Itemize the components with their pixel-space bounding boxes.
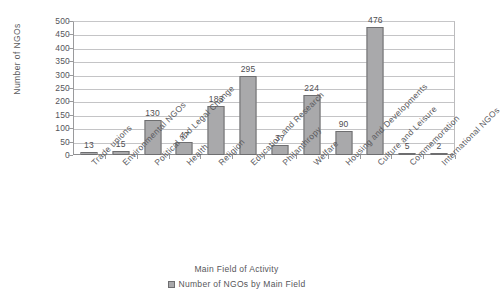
y-axis-tick-mark xyxy=(68,142,73,143)
y-axis-tick-label: 300 xyxy=(44,71,70,80)
x-axis-tick-mark xyxy=(455,155,456,159)
y-axis-tick-mark xyxy=(68,101,73,102)
bar-group: 295 xyxy=(232,21,264,155)
bars-layer: 131513047183295372249047652 xyxy=(73,21,455,155)
y-axis-tick-mark xyxy=(68,115,73,116)
x-axis-tick-mark xyxy=(232,155,233,159)
y-axis-tick-mark xyxy=(68,75,73,76)
legend-label: Number of NGOs by Main Field xyxy=(179,279,306,289)
y-axis-tick-label: 500 xyxy=(44,17,70,26)
bar-value-label: 476 xyxy=(368,16,383,25)
bar-value-label: 13 xyxy=(84,141,94,150)
y-axis-tick-labels: 500450400350300250200150100500 xyxy=(38,0,70,303)
y-axis-tick-mark xyxy=(68,88,73,89)
y-axis-tick-label: 200 xyxy=(44,97,70,106)
y-axis-tick-label: 250 xyxy=(44,84,70,93)
y-axis-tick-mark xyxy=(68,128,73,129)
bar-value-label: 90 xyxy=(339,120,349,129)
y-axis-tick-label: 400 xyxy=(44,44,70,53)
y-axis-tick-mark xyxy=(68,155,73,156)
y-axis-tick-mark xyxy=(68,21,73,22)
x-axis-tick-mark xyxy=(105,155,106,159)
x-axis-tick-mark xyxy=(200,155,201,159)
x-axis-tick-mark xyxy=(137,155,138,159)
x-axis-tick-mark xyxy=(264,155,265,159)
x-axis-tick-mark xyxy=(391,155,392,159)
x-axis-tick-mark xyxy=(328,155,329,159)
x-axis-tick-mark xyxy=(360,155,361,159)
y-axis-title: Number of NGOs xyxy=(12,4,22,114)
x-axis-tick-mark xyxy=(423,155,424,159)
bar-group: 13 xyxy=(73,21,105,155)
y-axis-tick-label: 50 xyxy=(44,138,70,147)
y-axis-tick-mark xyxy=(68,48,73,49)
legend-swatch-icon xyxy=(168,281,175,288)
y-axis-tick-mark xyxy=(68,61,73,62)
y-axis-tick-label: 150 xyxy=(44,111,70,120)
x-axis-tick-mark xyxy=(296,155,297,159)
chart-legend: Number of NGOs by Main Field xyxy=(0,279,473,290)
bar-value-label: 130 xyxy=(145,109,160,118)
bar-group: 90 xyxy=(328,21,360,155)
y-axis-tick-label: 0 xyxy=(44,151,70,160)
x-axis-tick-mark xyxy=(169,155,170,159)
y-axis-tick-label: 100 xyxy=(44,124,70,133)
y-axis-tick-mark xyxy=(68,34,73,35)
x-axis-title: Main Field of Activity xyxy=(0,264,473,274)
bar-value-label: 295 xyxy=(241,65,256,74)
y-axis-tick-label: 450 xyxy=(44,30,70,39)
y-axis-tick-label: 350 xyxy=(44,57,70,66)
